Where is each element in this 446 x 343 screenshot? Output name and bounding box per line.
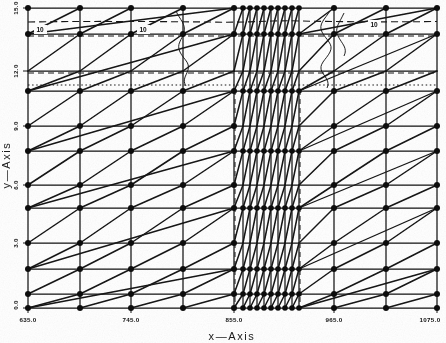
x-axis-title: x—Axis — [209, 330, 256, 342]
y-axis-title: y—Axis — [0, 142, 12, 189]
y-tick-label-2: 6.0 — [12, 180, 19, 190]
y-tick-label-3: 9.0 — [12, 121, 19, 131]
x-tick-label-1: 745.0 — [122, 316, 139, 323]
y-tick-label-0: 0.0 — [12, 300, 19, 310]
plot-screenshot: 635.0 745.0 855.0 965.0 1075.0 15.0 12.0… — [0, 0, 446, 343]
contour-label-0: 10 — [36, 26, 44, 33]
y-tick-label-5: 15.0 — [12, 1, 19, 15]
y-tick-label-1: 3.0 — [12, 238, 19, 248]
x-tick-label-3: 965.0 — [325, 316, 342, 323]
plot-svg: 635.0 745.0 855.0 965.0 1075.0 15.0 12.0… — [0, 0, 446, 343]
contour-label-1: 10 — [139, 26, 147, 33]
mesh-plot-figure: 635.0 745.0 855.0 965.0 1075.0 15.0 12.0… — [0, 0, 446, 343]
figure-background — [0, 0, 446, 343]
y-tick-label-4: 12.0 — [12, 64, 19, 78]
x-tick-label-4: 1075.0 — [419, 316, 440, 323]
x-tick-label-2: 855.0 — [225, 316, 242, 323]
contour-label-2: 10 — [370, 21, 378, 28]
x-tick-label-0: 635.0 — [19, 316, 36, 323]
